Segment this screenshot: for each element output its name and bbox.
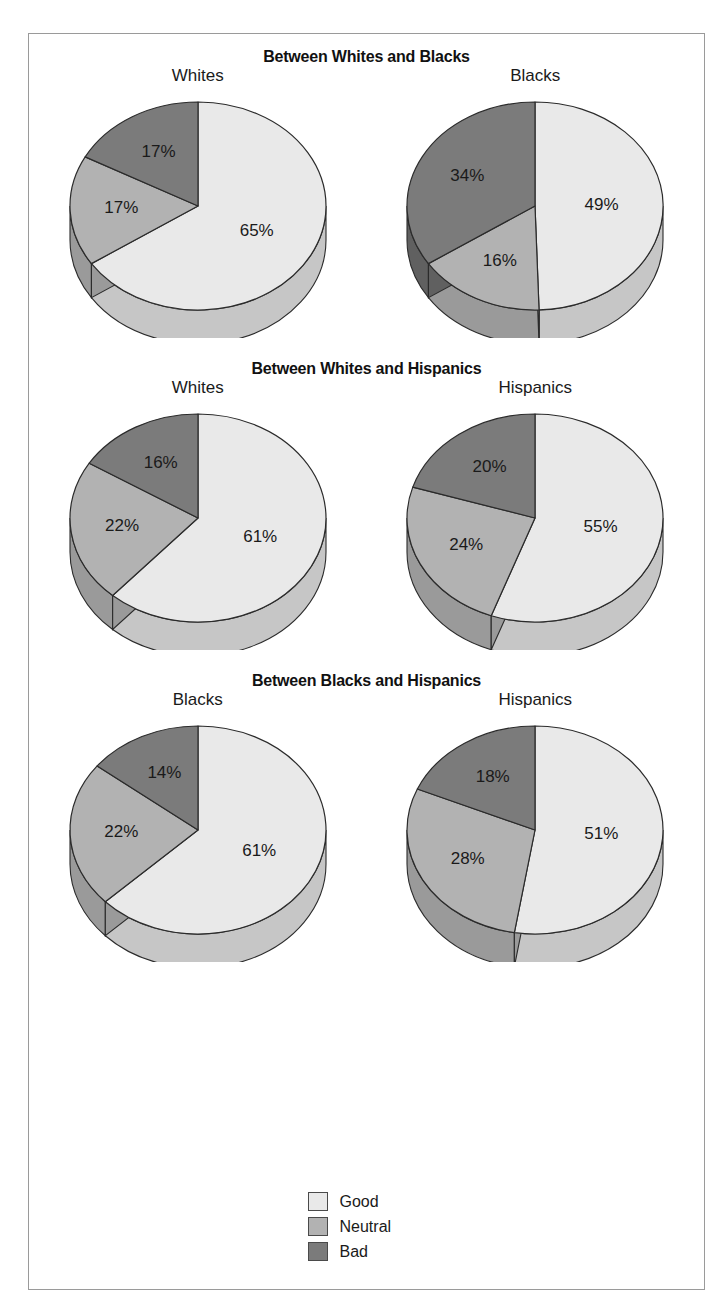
pie-slice-label: 22%	[104, 822, 138, 841]
pie-3d-top	[407, 726, 663, 934]
pie-cell: Whites61%22%16%	[38, 378, 358, 652]
chart-legend: GoodNeutralBad	[29, 1192, 704, 1267]
panel-list: Between Whites and BlacksWhites65%17%17%…	[29, 48, 704, 964]
comparison-panel: Between Whites and HispanicsWhites61%22%…	[29, 360, 704, 652]
legend-label: Bad	[340, 1243, 368, 1261]
legend-label: Neutral	[340, 1218, 392, 1236]
legend-swatch-icon	[308, 1217, 328, 1236]
pie-canvas: 49%16%34%	[375, 88, 695, 340]
comparison-panel: Between Blacks and HispanicsBlacks61%22%…	[29, 672, 704, 964]
pie-group-label: Hispanics	[375, 690, 695, 710]
legend-item[interactable]: Neutral	[308, 1217, 426, 1236]
pie-chart: 51%28%18%	[385, 712, 685, 962]
legend-swatch-icon	[308, 1242, 328, 1261]
pie-slice-label: 22%	[105, 516, 139, 535]
pie-chart: 55%24%20%	[385, 400, 685, 650]
pie-pair: Whites65%17%17%Blacks49%16%34%	[29, 66, 704, 340]
comparison-panel: Between Whites and BlacksWhites65%17%17%…	[29, 48, 704, 340]
pie-slice-label: 49%	[585, 195, 619, 214]
pie-slice-label: 61%	[243, 527, 277, 546]
pie-slice-label: 65%	[239, 221, 273, 240]
legend-label: Good	[340, 1193, 379, 1211]
pie-canvas: 65%17%17%	[38, 88, 358, 340]
pie-chart: 61%22%16%	[48, 400, 348, 650]
pie-3d-top	[407, 414, 663, 622]
pie-slice-label: 24%	[449, 535, 483, 554]
pie-slice-label: 16%	[143, 453, 177, 472]
pie-cell: Hispanics51%28%18%	[375, 690, 695, 964]
pie-slice-label: 14%	[147, 763, 181, 782]
pie-canvas: 61%22%16%	[38, 400, 358, 652]
legend-swatch-icon	[308, 1192, 328, 1211]
pie-cell: Whites65%17%17%	[38, 66, 358, 340]
figure-frame: Between Whites and BlacksWhites65%17%17%…	[28, 33, 705, 1290]
pie-3d-top	[407, 102, 663, 310]
pie-pair: Whites61%22%16%Hispanics55%24%20%	[29, 378, 704, 652]
panel-title: Between Whites and Hispanics	[29, 360, 704, 378]
pie-canvas: 55%24%20%	[375, 400, 695, 652]
pie-chart: 61%22%14%	[48, 712, 348, 962]
pie-group-label: Hispanics	[375, 378, 695, 398]
panel-title: Between Whites and Blacks	[29, 48, 704, 66]
legend-item[interactable]: Good	[308, 1192, 426, 1211]
pie-slice-label: 28%	[451, 849, 485, 868]
panel-title: Between Blacks and Hispanics	[29, 672, 704, 690]
pie-canvas: 61%22%14%	[38, 712, 358, 964]
pie-group-label: Whites	[38, 66, 358, 86]
pie-canvas: 51%28%18%	[375, 712, 695, 964]
pie-slice-label: 61%	[242, 841, 276, 860]
pie-group-label: Whites	[38, 378, 358, 398]
pie-slice-label: 18%	[476, 767, 510, 786]
pie-cell: Blacks61%22%14%	[38, 690, 358, 964]
pie-slice-label: 16%	[483, 251, 517, 270]
pie-slice-label: 20%	[473, 457, 507, 476]
pie-slice-label: 17%	[141, 142, 175, 161]
pie-slice-label: 34%	[451, 166, 485, 185]
pie-pair: Blacks61%22%14%Hispanics51%28%18%	[29, 690, 704, 964]
pie-chart: 65%17%17%	[48, 88, 348, 338]
pie-cell: Hispanics55%24%20%	[375, 378, 695, 652]
pie-group-label: Blacks	[38, 690, 358, 710]
pie-cell: Blacks49%16%34%	[375, 66, 695, 340]
pie-group-label: Blacks	[375, 66, 695, 86]
pie-slice-label: 17%	[104, 198, 138, 217]
pie-slice-label: 55%	[584, 517, 618, 536]
pie-slice-label: 51%	[585, 824, 619, 843]
legend-item[interactable]: Bad	[308, 1242, 426, 1261]
pie-chart: 49%16%34%	[385, 88, 685, 338]
